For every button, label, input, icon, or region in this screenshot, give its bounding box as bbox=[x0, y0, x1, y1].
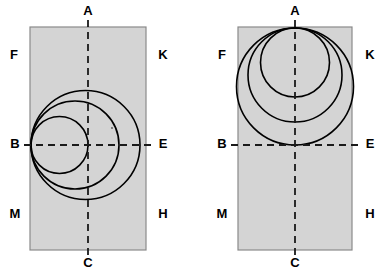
left-label-E: E bbox=[159, 136, 168, 151]
left-label-H: H bbox=[158, 206, 167, 221]
right-label-F: F bbox=[218, 47, 226, 62]
left-label-A: A bbox=[83, 3, 93, 18]
left-label-F: F bbox=[10, 47, 18, 62]
right-label-C: C bbox=[290, 255, 300, 270]
figure-root: A F K B E M H C A F K B E M H bbox=[0, 0, 389, 279]
left-diagram: A F K B E M H C bbox=[10, 3, 169, 270]
right-label-H: H bbox=[365, 206, 374, 221]
right-label-E: E bbox=[366, 136, 375, 151]
left-label-M: M bbox=[10, 206, 21, 221]
left-label-C: C bbox=[83, 255, 93, 270]
geometry-figure-svg: A F K B E M H C A F K B E M H bbox=[0, 0, 389, 279]
right-label-B: B bbox=[217, 136, 226, 151]
right-label-A: A bbox=[290, 3, 300, 18]
right-diagram: A F K B E M H C bbox=[217, 3, 376, 270]
right-label-K: K bbox=[365, 47, 375, 62]
right-label-M: M bbox=[217, 206, 228, 221]
left-label-K: K bbox=[158, 47, 168, 62]
left-center-dot bbox=[111, 127, 113, 129]
left-label-B: B bbox=[10, 136, 19, 151]
